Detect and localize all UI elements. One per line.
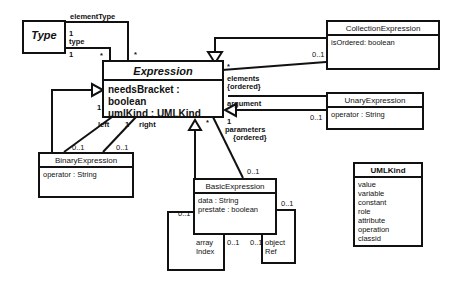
mult-array-left: 0..1 [178,210,191,218]
class-unary-expression[interactable]: UnaryExpression operator : String [326,92,424,130]
attribute: prestate : boolean [198,205,272,214]
class-expression[interactable]: Expression needsBracket : boolean umlKin… [102,60,224,118]
mult-object-left: 0..1 [250,239,263,247]
enum-literal: constant [358,198,418,207]
label-argument: argument [227,100,261,108]
mult-right: 0..1 [116,144,129,152]
mult-left-one: 1 [97,104,101,112]
enum-literal: value [358,180,418,189]
attribute: umlKind : UMLKind [108,108,218,120]
enum-name: UMLKind [355,164,421,178]
mult-star-elements: * [227,63,230,71]
gen-collection [215,38,326,52]
label-array: array [196,239,213,247]
mult-left: 0..1 [72,144,85,152]
mult-unary: 0..1 [310,114,323,122]
mult-array-right: 0..1 [227,239,240,247]
class-name: UnaryExpression [328,94,422,108]
label-element-type: elementType [70,13,115,21]
class-collection-expression[interactable]: CollectionExpression isOrdered: boolean [326,20,440,70]
label-left: left [98,121,109,129]
label-index: Index [196,248,214,256]
attribute: needsBracket : boolean [108,84,218,108]
mult-type-1b: 1 [69,51,73,59]
class-type[interactable]: Type [22,20,66,54]
mult-right-one: 1 [125,121,129,129]
mult-object-top: 0..1 [281,200,294,208]
class-name: Type [24,22,64,42]
class-name: Expression [104,62,222,81]
class-name: BasicExpression [195,180,275,194]
class-name: BinaryExpression [40,154,132,168]
enum-literal: operation [358,225,418,234]
mult-star-param: * [206,119,209,127]
label-ref: Ref [265,248,277,256]
attribute: operator : String [331,110,419,119]
class-name: CollectionExpression [328,22,438,36]
mult-star-type: * [100,52,103,60]
label-elements-ordered: {ordered} [227,83,261,91]
mult-basic-param: 0..1 [247,168,260,176]
attribute: data : String [198,196,272,205]
label-type-role: type [69,38,84,46]
enum-literal: variable [358,189,418,198]
enum-literal: attribute [358,216,418,225]
class-binary-expression[interactable]: BinaryExpression operator : String [38,152,134,198]
assoc-elements [222,62,326,70]
attribute: isOrdered: boolean [331,38,435,47]
label-right: right [139,121,156,129]
mult-star-elemtype: * [134,51,137,59]
attribute: operator : String [43,170,129,179]
enum-literal: role [358,207,418,216]
class-basic-expression[interactable]: BasicExpression data : String prestate :… [193,178,277,235]
enum-umlkind[interactable]: UMLKind value variable constant role att… [353,162,423,247]
label-param-ordered: {ordered} [233,134,267,142]
mult-collection: 0..1 [312,51,325,59]
label-object: object [265,239,285,247]
enum-literal: classid [358,234,418,243]
